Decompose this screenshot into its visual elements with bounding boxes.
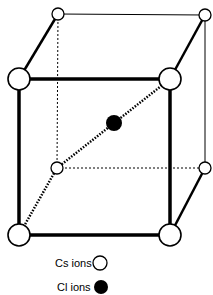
legend-cs-symbol (93, 256, 107, 270)
cscl-unit-cell-diagram: Cs ions Cl ions (0, 0, 213, 295)
back-face-edges (57, 14, 205, 168)
legend-cl-symbol (94, 280, 108, 294)
front-face-edges (19, 79, 170, 235)
back-cs-ions (51, 8, 211, 174)
edge-back-left-hidden (57, 14, 58, 168)
legend-cs-label: Cs ions (55, 257, 92, 269)
cs-ion-back-bottom-left (51, 162, 63, 174)
cs-ion-front-bottom-left (8, 224, 30, 246)
legend-cl-label: Cl ions (57, 281, 91, 293)
cs-ion-front-top-left (8, 68, 30, 90)
cs-ion-back-bottom-right (199, 162, 211, 174)
cs-ion-front-top-right (159, 68, 181, 90)
cs-ion-back-top-right (199, 9, 211, 21)
cs-ion-front-bottom-right (159, 224, 181, 246)
legend: Cs ions Cl ions (55, 256, 108, 294)
edge-back-top (58, 14, 205, 15)
cl-ion-center (106, 115, 122, 131)
cs-ion-back-top-left (52, 8, 64, 20)
front-cs-ions (8, 68, 181, 246)
